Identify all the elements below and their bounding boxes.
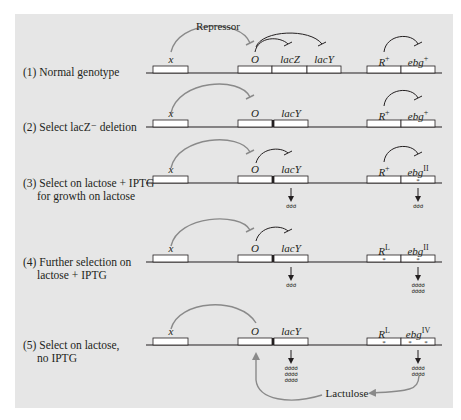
ebg-mrna-icon: σσσσ σσσσ bbox=[411, 282, 424, 294]
row-1-label: (1) Normal genotype bbox=[23, 66, 119, 79]
mutation-marker: * bbox=[424, 340, 428, 347]
gene-x-box bbox=[153, 66, 188, 73]
lactulose-label: Lactulose bbox=[326, 387, 369, 399]
repressor-label: Repressor bbox=[196, 20, 240, 32]
lacz-label: lacZ bbox=[280, 53, 300, 65]
ebg-mrna-icon: σσσ bbox=[413, 203, 423, 209]
operator-label: O bbox=[251, 163, 259, 175]
ebg-mrna-icon: σσσσ σσσσ bbox=[411, 365, 424, 377]
lacy-mrna-icon: σσσσ σσσσ σσσσ bbox=[284, 365, 297, 383]
gene-x-label: x bbox=[169, 107, 174, 119]
operator-label: O bbox=[251, 325, 259, 337]
row-1-genome bbox=[146, 26, 442, 73]
lacz-box bbox=[272, 66, 307, 73]
lacy-label: lacY bbox=[281, 163, 301, 175]
ebg-label: ebgIV bbox=[406, 325, 430, 340]
lacy-label: lacY bbox=[281, 242, 301, 254]
deletion-junction bbox=[272, 338, 274, 345]
row-2-genome bbox=[146, 84, 442, 127]
row-3-label: (3) Select on lactose + IPTG for growth … bbox=[23, 177, 154, 203]
r-label: R+ bbox=[378, 163, 389, 178]
mutation-marker: * bbox=[416, 257, 420, 264]
ebg-label: ebgII bbox=[407, 242, 428, 257]
operator-lacz-arc bbox=[255, 39, 288, 52]
operator-label: O bbox=[251, 107, 259, 119]
r-label: R+ bbox=[378, 107, 389, 122]
operator-label: O bbox=[251, 53, 259, 65]
lactulose-feedback-arrow bbox=[372, 376, 419, 393]
gene-x-label: x bbox=[169, 242, 174, 254]
r-label: RL bbox=[378, 325, 390, 340]
row-2-label: (2) Select lacZ⁻ deletion bbox=[23, 121, 137, 134]
ebg-label: ebg+ bbox=[408, 53, 428, 68]
operator-label: O bbox=[251, 242, 259, 254]
deletion-junction bbox=[272, 120, 274, 127]
lacy-box bbox=[307, 66, 341, 73]
row-5-genome bbox=[146, 305, 442, 400]
deletion-junction bbox=[272, 176, 274, 183]
mutation-marker: * bbox=[408, 340, 412, 347]
ebg-label: ebg+ bbox=[408, 107, 428, 122]
lacy-mrna-icon: σσσ bbox=[286, 203, 296, 209]
ebg-label: ebgII bbox=[407, 163, 428, 178]
lacy-label: lacY bbox=[314, 53, 334, 65]
mutation-marker: * bbox=[382, 257, 386, 264]
lacy-mrna-icon: σσσ bbox=[286, 282, 296, 288]
row-4-label: (4) Further selection on lactose + IPTG bbox=[23, 256, 131, 282]
r-label: R+ bbox=[378, 53, 389, 68]
deletion-junction bbox=[272, 255, 274, 262]
gene-x-label: x bbox=[169, 53, 174, 65]
row-5-label: (5) Select on lactose, no IPTG bbox=[23, 339, 119, 365]
r-label: RL bbox=[378, 242, 390, 257]
mutation-marker: * bbox=[416, 178, 420, 185]
r-ebg-arc bbox=[384, 36, 418, 52]
mutation-marker: * bbox=[382, 340, 386, 347]
operator-box bbox=[238, 66, 272, 73]
lacy-label: lacY bbox=[281, 325, 301, 337]
lacy-label: lacY bbox=[281, 107, 301, 119]
gene-x-label: x bbox=[169, 325, 174, 337]
gene-x-label: x bbox=[169, 163, 174, 175]
